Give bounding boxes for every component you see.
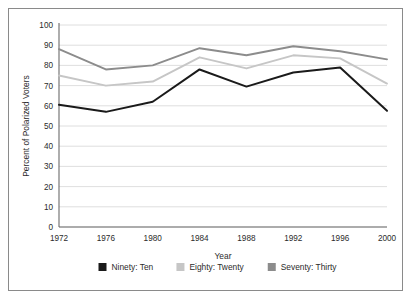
legend-label-eighty-twenty: Eighty: Twenty <box>189 262 244 272</box>
y-tick-label: 10 <box>44 203 54 212</box>
chart-legend: Ninety: TenEighty: TwentySeventy: Thirty <box>99 262 338 272</box>
series-line-eighty-twenty <box>59 55 387 85</box>
legend-swatch-eighty-twenty <box>176 263 184 271</box>
axis-lines-group <box>59 23 387 227</box>
x-tick-label: 1988 <box>237 234 256 243</box>
series-line-ninety-ten <box>59 67 387 111</box>
legend-label-ninety-ten: Ninety: Ten <box>112 262 154 272</box>
y-tick-label: 80 <box>44 61 54 70</box>
y-tick-label: 90 <box>44 41 54 50</box>
data-series-group <box>59 46 387 112</box>
x-axis-title: Year <box>215 251 232 261</box>
chart-figure-frame: 0102030405060708090100 19721976198019841… <box>8 8 403 291</box>
line-chart-svg: 0102030405060708090100 19721976198019841… <box>9 9 404 292</box>
x-tick-label: 1972 <box>50 234 69 243</box>
x-tick-label: 1996 <box>331 234 350 243</box>
legend-swatch-ninety-ten <box>99 263 107 271</box>
y-tick-label: 0 <box>48 223 53 232</box>
y-tick-label: 60 <box>44 102 54 111</box>
x-tick-label: 1980 <box>144 234 163 243</box>
x-tick-labels-group: 19721976198019841988199219962000 <box>50 234 397 243</box>
legend-label-seventy-thirty: Seventy: Thirty <box>281 262 338 272</box>
y-axis-title: Percent of Polarized Voters <box>21 75 31 177</box>
x-tick-label: 1976 <box>97 234 116 243</box>
y-tick-label: 40 <box>44 142 54 151</box>
y-tick-label: 100 <box>39 21 53 30</box>
x-tick-label: 2000 <box>378 234 397 243</box>
y-tick-label: 70 <box>44 82 54 91</box>
y-tick-labels-group: 0102030405060708090100 <box>39 21 53 232</box>
y-tick-label: 30 <box>44 162 54 171</box>
x-tick-label: 1984 <box>190 234 209 243</box>
chart-plot-area: 0102030405060708090100 19721976198019841… <box>9 9 402 290</box>
gridlines-group <box>59 25 387 227</box>
y-tick-label: 20 <box>44 183 54 192</box>
x-tick-label: 1992 <box>284 234 303 243</box>
legend-swatch-seventy-thirty <box>268 263 276 271</box>
y-tick-label: 50 <box>44 122 54 131</box>
